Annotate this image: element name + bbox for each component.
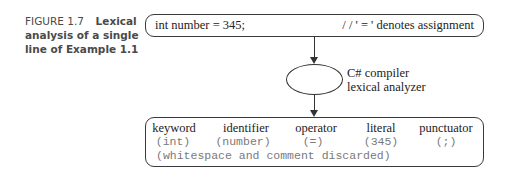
source-line-box: int number = 345; / / ' = ' denotes assi… xyxy=(145,14,484,37)
token-value: (345) xyxy=(364,135,399,148)
analyzer-label-line2: lexical analyzer xyxy=(347,80,426,94)
token-value: (;) xyxy=(436,135,457,148)
token-value: (=) xyxy=(303,135,324,148)
token-category: keyword xyxy=(152,121,196,136)
token-value: (int) xyxy=(156,135,191,148)
token-category: literal xyxy=(366,121,395,136)
lexical-analyzer-ellipse xyxy=(286,64,343,95)
arrow-down-icon xyxy=(310,57,318,64)
analyzer-label: C# compiler lexical analyzer xyxy=(347,66,426,94)
analyzer-label-line1: C# compiler xyxy=(347,66,426,80)
figure-number: FIGURE 1.7 xyxy=(25,15,84,27)
source-code: int number = 345; xyxy=(155,18,245,33)
token-value: (number) xyxy=(215,135,270,148)
token-category: punctuator xyxy=(419,121,472,136)
arrow-to-analyzer-line xyxy=(314,37,315,57)
source-comment: / / ' = ' denotes assignment xyxy=(342,18,474,33)
arrow-to-tokens-line xyxy=(314,95,315,110)
token-output-box: keyword identifier operator literal punc… xyxy=(145,117,484,167)
arrow-down-icon xyxy=(310,110,318,117)
figure-caption: FIGURE 1.7 Lexical analysis of a single … xyxy=(25,14,140,56)
discard-note: (whitespace and comment discarded) xyxy=(156,149,493,162)
token-category: identifier xyxy=(223,121,269,136)
token-category: operator xyxy=(295,121,337,136)
